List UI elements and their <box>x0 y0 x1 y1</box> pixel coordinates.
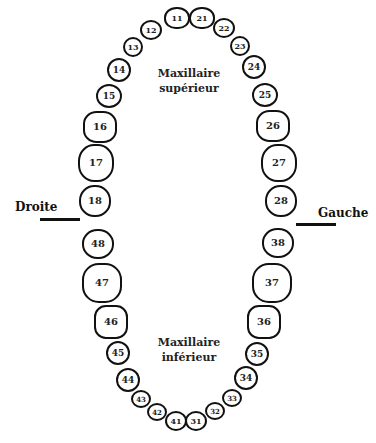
tooth-24[interactable]: 24 <box>242 55 266 79</box>
tooth-number: 27 <box>272 158 286 168</box>
tooth-25[interactable]: 25 <box>252 83 278 107</box>
tooth-42[interactable]: 42 <box>147 403 167 421</box>
tooth-number: 48 <box>91 239 105 249</box>
tooth-number: 11 <box>171 14 182 22</box>
tooth-number: 15 <box>103 92 116 101</box>
tooth-45[interactable]: 45 <box>106 341 130 365</box>
tooth-16[interactable]: 16 <box>83 111 117 143</box>
upper-jaw-label-line1: Maxillaire <box>139 66 239 81</box>
tooth-number: 47 <box>95 278 109 288</box>
tooth-38[interactable]: 38 <box>262 228 294 258</box>
tooth-43[interactable]: 43 <box>131 390 151 408</box>
upper-jaw-label: Maxillaire supérieur <box>139 66 239 96</box>
tooth-number: 14 <box>113 66 126 75</box>
tooth-number: 24 <box>248 63 261 72</box>
lower-jaw-label-line1: Maxillaire <box>139 335 239 350</box>
tooth-23[interactable]: 23 <box>230 36 250 56</box>
tooth-number: 34 <box>240 374 253 383</box>
tooth-number: 42 <box>152 409 162 416</box>
tooth-48[interactable]: 48 <box>82 229 114 259</box>
tooth-18[interactable]: 18 <box>79 185 111 217</box>
tooth-number: 31 <box>190 417 201 425</box>
tooth-32[interactable]: 32 <box>205 402 225 420</box>
tooth-number: 45 <box>112 349 125 358</box>
tooth-17[interactable]: 17 <box>78 144 114 182</box>
tooth-13[interactable]: 13 <box>123 37 143 57</box>
tooth-46[interactable]: 46 <box>94 305 128 339</box>
tooth-number: 28 <box>274 196 288 206</box>
dental-chart: Maxillaire supérieur Maxillaire inférieu… <box>0 0 376 443</box>
tooth-31[interactable]: 31 <box>185 411 207 431</box>
tooth-number: 38 <box>271 238 285 248</box>
tooth-number: 35 <box>251 350 264 359</box>
tooth-28[interactable]: 28 <box>265 185 297 217</box>
tooth-26[interactable]: 26 <box>256 110 290 142</box>
tooth-number: 26 <box>266 121 280 131</box>
left-side-marker <box>296 223 336 226</box>
tooth-number: 46 <box>104 317 118 327</box>
lower-jaw-label-line2: inférieur <box>139 350 239 365</box>
tooth-11[interactable]: 11 <box>164 7 190 29</box>
tooth-number: 13 <box>127 43 138 51</box>
tooth-number: 44 <box>122 376 135 385</box>
tooth-number: 21 <box>196 14 207 22</box>
tooth-number: 43 <box>136 396 146 403</box>
tooth-21[interactable]: 21 <box>189 7 215 29</box>
tooth-47[interactable]: 47 <box>82 263 122 303</box>
tooth-36[interactable]: 36 <box>247 305 281 339</box>
tooth-14[interactable]: 14 <box>107 58 131 82</box>
tooth-number: 37 <box>265 278 279 288</box>
tooth-number: 41 <box>170 417 181 425</box>
tooth-33[interactable]: 33 <box>222 389 242 407</box>
left-side-label: Gauche <box>318 206 368 220</box>
tooth-number: 23 <box>234 42 245 50</box>
tooth-37[interactable]: 37 <box>252 263 292 303</box>
tooth-22[interactable]: 22 <box>213 18 235 38</box>
tooth-15[interactable]: 15 <box>96 84 122 108</box>
right-side-marker <box>40 218 80 221</box>
tooth-number: 32 <box>210 408 220 415</box>
lower-jaw-label: Maxillaire inférieur <box>139 335 239 365</box>
tooth-44[interactable]: 44 <box>116 368 140 392</box>
tooth-41[interactable]: 41 <box>165 411 187 431</box>
tooth-number: 25 <box>259 91 272 100</box>
tooth-number: 17 <box>89 158 103 168</box>
tooth-27[interactable]: 27 <box>261 144 297 182</box>
tooth-number: 36 <box>257 317 271 327</box>
tooth-12[interactable]: 12 <box>140 20 162 40</box>
upper-jaw-label-line2: supérieur <box>139 81 239 96</box>
tooth-35[interactable]: 35 <box>245 342 269 366</box>
right-side-label: Droite <box>15 200 57 214</box>
tooth-number: 33 <box>227 395 237 402</box>
tooth-34[interactable]: 34 <box>234 366 258 390</box>
tooth-number: 22 <box>218 24 229 32</box>
tooth-number: 12 <box>145 26 156 34</box>
tooth-number: 18 <box>88 196 102 206</box>
tooth-number: 16 <box>93 122 107 132</box>
